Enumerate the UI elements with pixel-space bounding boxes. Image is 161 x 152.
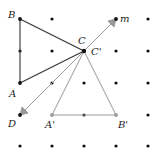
point-m [114,17,118,21]
point-b [18,17,22,21]
label-c-prime: C' [91,46,101,57]
point-a-prime [50,113,54,117]
point-b-prime [114,113,118,117]
vector-cd [20,51,84,115]
label-m: m [120,13,129,24]
label-c: C [78,35,86,46]
label-b: B [7,9,15,20]
label-a-prime: A' [44,119,55,130]
label-d: D [7,118,16,129]
point-d [18,113,22,117]
label-b-prime: B' [117,119,128,130]
point-c [82,49,86,53]
translation-diagram: B A C C' D m A' B' [0,0,161,152]
point-a [18,81,22,85]
label-a: A [8,88,16,99]
